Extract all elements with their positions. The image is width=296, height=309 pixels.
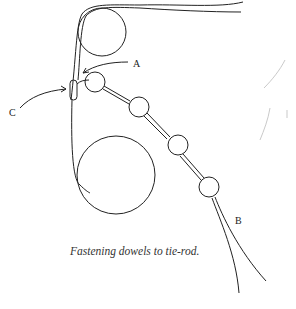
diagram-drawing [0,0,296,309]
label-a: A [133,58,140,69]
diagram-canvas: A C B Fastening dowels to tie-rod. [0,0,296,309]
lower-dowel [77,136,155,214]
small-dowel-2 [129,97,149,117]
vertical-strand [72,100,90,193]
figure-caption: Fastening dowels to tie-rod. [70,245,199,257]
label-c: C [9,107,16,118]
small-dowel-4 [199,177,219,197]
rope-outer [71,2,243,100]
upper-dowel [78,8,126,56]
rope-inner [78,7,241,80]
small-dowel-1 [85,72,105,92]
small-dowel-3 [168,135,188,155]
label-b: B [235,215,242,226]
